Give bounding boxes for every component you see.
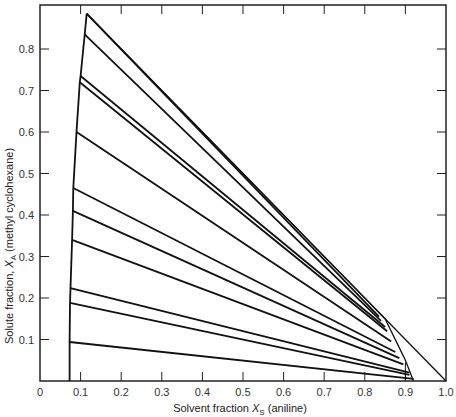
- tie-line: [73, 211, 399, 358]
- tie-line: [80, 82, 387, 331]
- y-tick-label: 0.1: [19, 334, 34, 346]
- plot-border: [40, 5, 446, 381]
- x-tick-label: 0.2: [114, 386, 129, 398]
- extract-boundary: [87, 14, 414, 381]
- x-tick-label: 0.6: [276, 386, 291, 398]
- raffinate-boundary: [70, 14, 87, 381]
- tie-lines: [70, 14, 414, 379]
- phase-boundaries: [70, 14, 446, 381]
- tie-line: [73, 188, 395, 352]
- x-tick-label: 1.0: [438, 386, 453, 398]
- x-axis-label: Solvent fraction XS (aniline): [173, 402, 307, 417]
- y-tick-label: 0.6: [19, 126, 34, 138]
- x-tick-label: 0.9: [398, 386, 413, 398]
- y-axis-label: Solute fraction, XA (methyl cyclohexane): [3, 148, 18, 344]
- ternary-tie-line-chart: 00.10.20.30.40.50.60.70.80.91.0 0.10.20.…: [0, 0, 456, 417]
- x-tick-label: 0: [37, 386, 43, 398]
- x-tick-label: 0.8: [357, 386, 372, 398]
- tie-line: [85, 34, 381, 320]
- y-tick-label: 0.3: [19, 251, 34, 263]
- y-tick-label: 0.5: [19, 168, 34, 180]
- x-tick-label: 0.5: [235, 386, 250, 398]
- tie-line: [81, 76, 386, 327]
- y-tick-label: 0.8: [19, 43, 34, 55]
- plot-frame: [40, 5, 446, 381]
- tie-line: [87, 14, 379, 317]
- x-tick-label: 0.4: [195, 386, 210, 398]
- y-tick-label: 0.7: [19, 85, 34, 97]
- x-tick-label: 0.7: [317, 386, 332, 398]
- y-tick-label: 0.2: [19, 292, 34, 304]
- x-tick-label: 0.3: [154, 386, 169, 398]
- y-tick-label: 0.4: [19, 209, 34, 221]
- x-tick-label: 0.1: [73, 386, 88, 398]
